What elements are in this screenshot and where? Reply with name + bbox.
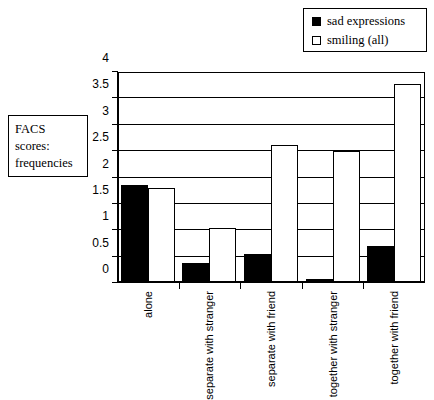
x-axis-labels: aloneseparatewithstrangerseparatewith fr… (117, 289, 425, 355)
y-axis-tick (112, 97, 118, 98)
x-axis-label-cell: togetherwithstranger (302, 289, 364, 355)
side-caption-box: FACS scores: frequencies (8, 115, 88, 177)
side-caption-line-2: scores: (15, 138, 87, 155)
y-axis-tick-label: 3.5 (92, 77, 109, 91)
bar-chart-plot-area: 00.511.522.533.54 (117, 72, 425, 283)
x-axis-label-cell: togetherwith friend (363, 289, 425, 355)
x-axis-label-cell: separatewith friend (240, 289, 302, 355)
legend-item-sad-expressions: sad expressions (312, 12, 426, 31)
x-axis-label-word: with friend (388, 291, 400, 341)
x-axis-label-word: with (203, 334, 215, 354)
side-caption-line-3: frequencies (15, 155, 87, 172)
side-caption-line-1: FACS (15, 121, 87, 138)
y-axis-tick (112, 177, 118, 178)
y-axis-tick (112, 150, 118, 151)
x-axis-label-word: with friend (265, 291, 277, 341)
y-axis-tick (112, 229, 118, 230)
x-axis-label-word: separate (203, 357, 215, 400)
legend-label-smiling-all: smiling (all) (327, 34, 388, 47)
x-axis-label-word: together (327, 357, 339, 397)
y-axis-tick-label: 4 (102, 51, 109, 65)
top-caption (196, 0, 434, 6)
x-axis-label-word: together (388, 344, 400, 384)
x-axis-label-cell: alone (117, 289, 179, 355)
y-axis-tick (112, 203, 118, 204)
x-axis-label-word: stranger (327, 291, 339, 331)
y-axis-tick-label: 3 (102, 104, 109, 118)
y-axis-tick-label: 2 (102, 157, 109, 171)
y-axis-tick-label: 1 (102, 209, 109, 223)
x-axis-label-word: with (327, 334, 339, 354)
legend-item-smiling-all: smiling (all) (312, 31, 426, 50)
legend-label-sad-expressions: sad expressions (327, 15, 405, 28)
x-axis-label-word: alone (142, 291, 154, 318)
x-axis-label-word: stranger (203, 291, 215, 331)
y-axis-tick-label: 0.5 (92, 236, 109, 250)
y-axis-tick (112, 124, 118, 125)
plot-frame (117, 72, 425, 283)
x-axis-label-cell: separatewithstranger (179, 289, 241, 355)
y-axis-tick (112, 71, 118, 72)
x-axis-label-word: separate (265, 344, 277, 387)
chart-legend: sad expressions smiling (all) (303, 8, 427, 52)
y-axis-tick-label: 2.5 (92, 130, 109, 144)
y-axis-tick (112, 256, 118, 257)
y-axis-tick-label: 1.5 (92, 183, 109, 197)
filled-square-icon (312, 17, 321, 26)
hollow-square-icon (312, 36, 321, 45)
y-axis-tick-label: 0 (102, 262, 109, 276)
y-axis-tick (112, 282, 118, 283)
